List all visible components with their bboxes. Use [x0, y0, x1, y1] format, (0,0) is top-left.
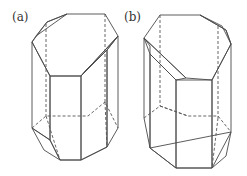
crystal-a-right-face: [81, 50, 107, 160]
crystal-a-top-left-bevel: [36, 14, 67, 36]
crystal-a-hidden-edges: [32, 14, 118, 160]
crystal-diagram: [0, 0, 247, 176]
crystal-b-top-right-bevel: [200, 15, 231, 44]
crystal-b-left-face: [144, 38, 150, 148]
crystal-a: [32, 14, 118, 160]
crystal-b-front-face: [176, 80, 212, 168]
crystal-b: [144, 15, 231, 168]
crystal-a-far-right-face: [107, 36, 118, 147]
crystal-b-bottom-chamfer: [150, 132, 231, 168]
crystal-a-front-face: [50, 76, 81, 160]
crystal-a-bottom-chamfer: [32, 128, 60, 160]
crystal-b-hidden-edges: [144, 15, 231, 168]
crystal-a-left-face: [32, 42, 50, 140]
